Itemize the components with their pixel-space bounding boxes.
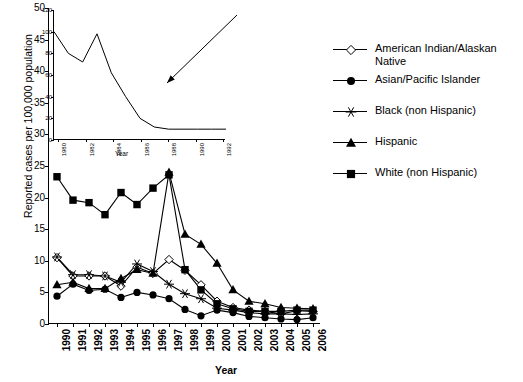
x-tick-mark: [281, 323, 282, 327]
data-point-filled-square: [347, 170, 355, 178]
legend-marker-filled-square: [344, 167, 358, 181]
inset-x-tick-mark: [113, 139, 114, 142]
y-tick-mark: [45, 198, 49, 199]
y-tick-mark: [45, 292, 49, 293]
x-tick-label: 1994: [125, 329, 136, 351]
inset-y-tick-mark: [51, 53, 54, 54]
x-tick-label: 1992: [93, 329, 104, 351]
data-point-open-diamond: [85, 272, 93, 280]
x-tick-label: 1997: [173, 329, 184, 351]
x-tick-mark: [265, 323, 266, 327]
data-point-filled-square: [213, 300, 220, 307]
inset-y-tick-label: 120: [38, 7, 52, 13]
data-point-filled-square: [101, 211, 108, 218]
data-point-filled-triangle: [244, 296, 253, 304]
data-point-filled-circle: [347, 77, 355, 85]
legend-item: White (non Hispanic): [333, 166, 519, 197]
x-tick-label: 2005: [301, 329, 312, 351]
inset-y-tick-mark: [51, 97, 54, 98]
data-point-filled-circle: [133, 289, 140, 296]
legend-item: Asian/Pacific Islander: [333, 73, 519, 104]
data-point-filled-triangle: [346, 138, 356, 147]
inset-x-tick-label: 1992: [226, 143, 232, 156]
chart-container: Reported cases per 100,000 population Ye…: [0, 0, 523, 382]
x-tick-mark: [105, 323, 106, 327]
inset-x-tick-mark: [141, 139, 142, 142]
x-tick-label: 2003: [269, 329, 280, 351]
inset-x-tick-mark: [168, 139, 169, 142]
data-point-filled-square: [229, 305, 236, 312]
data-point-filled-square: [197, 286, 204, 293]
y-tick-label: 0: [25, 319, 45, 329]
data-point-filled-circle: [149, 291, 156, 298]
x-tick-label: 1990: [61, 329, 72, 351]
y-tick-label: 15: [25, 224, 45, 234]
x-tick-label: 2004: [285, 329, 296, 351]
legend-marker-asterisk: [344, 105, 358, 119]
x-tick-label: 1999: [205, 329, 216, 351]
data-point-filled-triangle: [196, 240, 205, 248]
data-point-asterisk: [180, 289, 190, 298]
data-point-filled-square: [245, 308, 252, 315]
legend-marker-filled-circle: [344, 74, 358, 88]
x-tick-mark: [137, 323, 138, 327]
x-axis-label: Year: [215, 364, 237, 376]
inset-y-tick-mark: [51, 10, 54, 11]
x-tick-label: 1995: [141, 329, 152, 351]
data-point-filled-square: [117, 189, 124, 196]
inset-y-tick-mark: [51, 118, 54, 119]
series-line: [57, 172, 313, 309]
legend-label: Black (non Hispanic): [375, 104, 519, 117]
data-point-filled-square: [133, 201, 140, 208]
legend-label: White (non Hispanic): [375, 166, 519, 179]
data-point-filled-circle: [165, 295, 172, 302]
x-tick-mark: [169, 323, 170, 327]
x-tick-mark: [233, 323, 234, 327]
x-tick-label: 1993: [109, 329, 120, 351]
inset-x-tick-label: 1982: [89, 143, 95, 156]
legend-label: American Indian/Alaskan Native: [375, 42, 519, 68]
inset-y-tick-label: 0: [38, 137, 52, 143]
series-line: [57, 175, 313, 312]
y-tick-mark: [45, 103, 49, 104]
inset-x-tick-mark: [223, 139, 224, 142]
inset-y-tick-label: 20: [38, 115, 52, 121]
inset-y-tick-label: 80: [38, 50, 52, 56]
data-point-filled-circle: [277, 315, 284, 322]
x-tick-label: 2001: [237, 329, 248, 351]
x-tick-label: 1998: [189, 329, 200, 351]
y-tick-mark: [45, 261, 49, 262]
x-tick-label: 2006: [317, 329, 328, 351]
data-point-filled-circle: [117, 294, 124, 301]
x-tick-mark: [185, 323, 186, 327]
data-point-asterisk: [196, 294, 206, 303]
x-tick-mark: [201, 323, 202, 327]
data-point-filled-square: [309, 306, 316, 313]
inset-x-tick-label: 1986: [144, 143, 150, 156]
inset-chart: 0204060801001201980198219841986198819901…: [53, 10, 225, 140]
inset-y-tick-label: 40: [38, 94, 52, 100]
data-point-asterisk: [346, 107, 357, 116]
y-tick-label: 20: [25, 193, 45, 203]
inset-y-tick-mark: [51, 32, 54, 33]
y-tick-label: 25: [25, 161, 45, 171]
x-tick-mark: [121, 323, 122, 327]
legend-item: Black (non Hispanic): [333, 104, 519, 135]
x-tick-mark: [89, 323, 90, 327]
data-point-filled-square: [277, 308, 284, 315]
y-tick-label: 5: [25, 287, 45, 297]
data-point-filled-square: [181, 266, 188, 273]
x-tick-label: 2002: [253, 329, 264, 351]
legend-label: Asian/Pacific Islander: [375, 73, 519, 86]
y-tick-mark: [45, 324, 49, 325]
inset-x-tick-label: 1990: [199, 143, 205, 156]
inset-y-tick-label: 60: [38, 72, 52, 78]
data-point-filled-circle: [181, 306, 188, 313]
data-point-filled-square: [165, 171, 172, 178]
legend-item: Hispanic: [333, 135, 519, 166]
data-point-filled-square: [53, 173, 60, 180]
data-point-filled-square: [261, 308, 268, 315]
x-tick-label: 1991: [77, 329, 88, 351]
data-point-filled-triangle: [68, 277, 77, 285]
data-point-filled-circle: [53, 293, 60, 300]
